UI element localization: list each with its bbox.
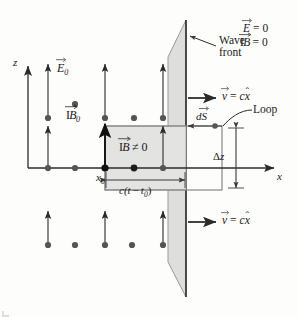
label-E0-sub: 0 [64,68,68,77]
field-row-lower [45,211,166,248]
label-velocity-bottom-eq: = [230,214,237,226]
label-velocity-bottom: v=cˆx [222,214,250,226]
axis-label-x: x [277,170,282,182]
delta-z-dimension [228,128,244,188]
label-E0: E0 [57,61,68,77]
label-B-zero-relation: = 0 [253,36,268,48]
axis-label-z: z [13,56,17,68]
label-E-zero-symbol: E [243,22,250,34]
label-x0-sub: 0 [101,177,105,186]
label-x0: x0 [96,171,105,186]
page-corner-mark [3,311,9,316]
label-B0-symbol: B [69,108,76,122]
label-wave-front: Wave front [219,34,245,58]
label-velocity-top-lhs: v [222,90,227,102]
loop-leader [223,110,252,126]
label-B0-sub: 0 [76,115,80,124]
label-B-nonzero-symbol: B [122,140,129,154]
label-E-zero: E= 0 [243,22,268,34]
figure-canvas: z x E0 IB0 IB≠ 0 E= 0 [0,0,298,317]
label-velocity-top-eq: = [230,90,237,102]
label-ct-minus-t0: c(t−t0) [119,184,151,199]
label-dS-symbol: dS [196,110,207,122]
label-wave-front-line2: front [219,46,245,58]
wave-front-leader [190,36,216,46]
dS-arrow [188,123,222,129]
label-ct-close: ) [148,184,152,196]
label-velocity-bottom-lhs: v [222,214,227,226]
label-E-zero-relation: = 0 [253,22,268,34]
label-dS: dS [196,110,207,122]
label-loop: Loop [253,103,277,115]
label-velocity-top: v=cˆx [222,90,250,102]
label-E0-symbol: E [57,61,64,75]
label-B0: IB0 [66,108,80,124]
label-delta-z: Δz [213,150,224,162]
label-B-nonzero: IB≠ 0 [119,140,148,155]
label-ct-minus: − [133,184,139,196]
label-delta-z-symbol: z [220,150,224,162]
label-wave-front-line1: Wave [219,34,245,46]
label-B-nonzero-relation: ≠ 0 [132,140,148,154]
label-ct-prefix: c(t [119,184,131,196]
hat-icon: ˆ [245,210,250,221]
hat-icon: ˆ [245,86,250,97]
